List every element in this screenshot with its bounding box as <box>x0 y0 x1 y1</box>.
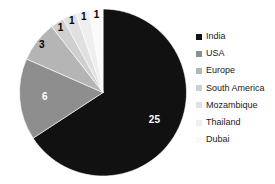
legend-item-label: USA <box>206 49 225 58</box>
legend-item[interactable]: Thailand <box>196 114 275 131</box>
legend-item[interactable]: Europe <box>196 62 275 79</box>
pie-slice-label: 3 <box>39 40 45 50</box>
legend-item-label: Thailand <box>206 118 241 127</box>
pie-slice-label: 1 <box>69 16 75 26</box>
legend-swatch-icon <box>196 137 202 143</box>
legend-swatch-icon <box>196 85 202 91</box>
legend-swatch-icon <box>196 34 202 40</box>
pie-slice-label: 1 <box>94 10 100 20</box>
legend-item[interactable]: Dubai <box>196 131 275 148</box>
pie-slice-label: 1 <box>81 12 87 22</box>
pie-slice-label: 25 <box>149 115 160 125</box>
legend-item-label: Europe <box>206 66 235 75</box>
legend-item-label: Mozambique <box>206 101 258 110</box>
legend: IndiaUSAEuropeSouth AmericaMozambiqueTha… <box>196 28 275 152</box>
legend-item-label: India <box>206 32 226 41</box>
legend-swatch-icon <box>196 68 202 74</box>
pie-slice-label: 6 <box>42 92 48 102</box>
legend-item[interactable]: South America <box>196 80 275 97</box>
legend-item[interactable]: India <box>196 28 275 45</box>
legend-item[interactable]: USA <box>196 45 275 62</box>
legend-swatch-icon <box>196 120 202 126</box>
pie-chart: 25631111 IndiaUSAEuropeSouth AmericaMoza… <box>0 0 275 184</box>
legend-swatch-icon <box>196 102 202 108</box>
pie-plot-area: 25631111 <box>0 0 195 184</box>
pie-slice-label: 1 <box>58 23 64 33</box>
pie-svg <box>0 0 195 184</box>
legend-item[interactable]: Mozambique <box>196 97 275 114</box>
legend-item-label: Dubai <box>206 135 230 144</box>
legend-item-label: South America <box>206 84 265 93</box>
legend-swatch-icon <box>196 51 202 57</box>
